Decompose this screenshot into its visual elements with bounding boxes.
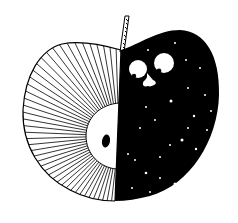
- apple-svg: [0, 0, 238, 223]
- apple-core: [86, 103, 120, 169]
- left-eye-icon: [129, 60, 147, 78]
- apple-illustration: Apple split into day and night: [0, 0, 238, 223]
- stem-icon: [120, 16, 129, 52]
